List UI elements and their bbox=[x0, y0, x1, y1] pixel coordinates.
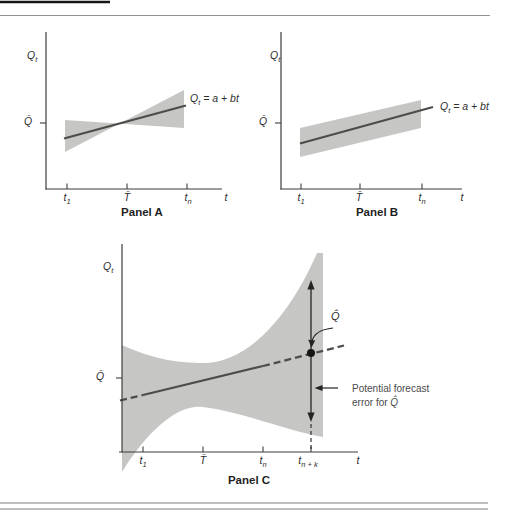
panel-c-y-axis-label: Qt bbox=[103, 261, 113, 272]
bottom-rules bbox=[0, 503, 488, 509]
panel-b-confidence-band bbox=[300, 100, 421, 157]
panel-c-caption: Panel C bbox=[228, 474, 270, 486]
panel-a-caption: Panel A bbox=[121, 206, 163, 218]
panel-b-tn-label: tn bbox=[418, 192, 425, 203]
panel-a-t1-label: t1 bbox=[63, 192, 70, 203]
figure: Qt Q̄ Qt = a + bt t1 T̄ tn t Panel A Qt … bbox=[0, 0, 515, 517]
panel-a-y-axis-label: Qt bbox=[27, 50, 37, 61]
panel-b-caption: Panel B bbox=[356, 206, 398, 218]
panel-c-tn-label: tn bbox=[259, 455, 266, 466]
panel-b-plot bbox=[275, 32, 462, 190]
forecast-point-dot bbox=[307, 349, 315, 357]
forecast-error-note-line2: error for Q̂ bbox=[352, 396, 429, 410]
panel-c-tnk-label: tn + k bbox=[298, 455, 317, 466]
panel-a-tbar-label: T̄ bbox=[124, 192, 130, 203]
forecast-error-note: Potential forecast error for Q̂ bbox=[352, 382, 429, 409]
panel-b-qbar-label: Q̄ bbox=[259, 116, 267, 127]
panel-a-tn-label: tn bbox=[184, 192, 191, 203]
panel-a-qbar-label: Q̄ bbox=[24, 116, 32, 127]
panel-c-qbar-label: Q̄ bbox=[96, 371, 104, 382]
panel-c-plot bbox=[116, 244, 358, 472]
panel-a-equation-label: Qt = a + bt bbox=[190, 93, 239, 104]
panel-a-plot bbox=[40, 32, 222, 190]
panel-b-equation-label: Qt = a + bt bbox=[440, 101, 489, 112]
panel-c-t1-label: t1 bbox=[139, 455, 146, 466]
panel-b-y-axis-label: Qt bbox=[270, 50, 280, 61]
panel-b-tbar-label: T̄ bbox=[356, 192, 362, 203]
figure-canvas bbox=[0, 0, 515, 517]
panel-b-t1-label: t1 bbox=[297, 192, 304, 203]
top-rules bbox=[0, 2, 490, 16]
panel-c-qhat-label: Q̂ bbox=[331, 311, 340, 322]
forecast-error-note-line1: Potential forecast bbox=[352, 382, 429, 396]
panel-c-x-axis-label: t bbox=[357, 455, 360, 466]
panel-b-x-axis-label: t bbox=[461, 192, 464, 203]
panel-c-confidence-band bbox=[122, 253, 323, 472]
panel-a-x-axis-label: t bbox=[225, 192, 228, 203]
panel-c-tbar-label: T̄ bbox=[200, 455, 206, 466]
